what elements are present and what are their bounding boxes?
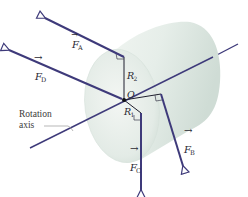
label-force-b-arrow: → xyxy=(184,125,193,136)
label-force-d: → F D xyxy=(34,52,46,84)
label-radius-1-sub: 1 xyxy=(131,111,135,118)
label-force-c-sub: C xyxy=(136,167,141,175)
origin-point xyxy=(122,98,126,102)
label-force-b: → F B xyxy=(183,125,195,157)
force-vector-a xyxy=(45,18,124,57)
label-force-d-sub: D xyxy=(41,76,46,84)
label-origin: O xyxy=(127,89,135,100)
label-force-d-arrow: → xyxy=(34,52,43,63)
label-force-b-sub: B xyxy=(190,149,195,157)
label-force-a-sub: A xyxy=(77,44,83,52)
label-radius-2-sub: 2 xyxy=(134,75,138,82)
label-force-a: → F A xyxy=(71,29,83,52)
label-rotation-axis-line2: axis xyxy=(19,120,35,130)
label-rotation-axis-line1: Rotation xyxy=(19,109,52,119)
force-diagram: → F A → F D → F C → F B R 2 O R 1 Rotati… xyxy=(0,0,248,197)
label-force-c-arrow: → xyxy=(130,143,139,154)
